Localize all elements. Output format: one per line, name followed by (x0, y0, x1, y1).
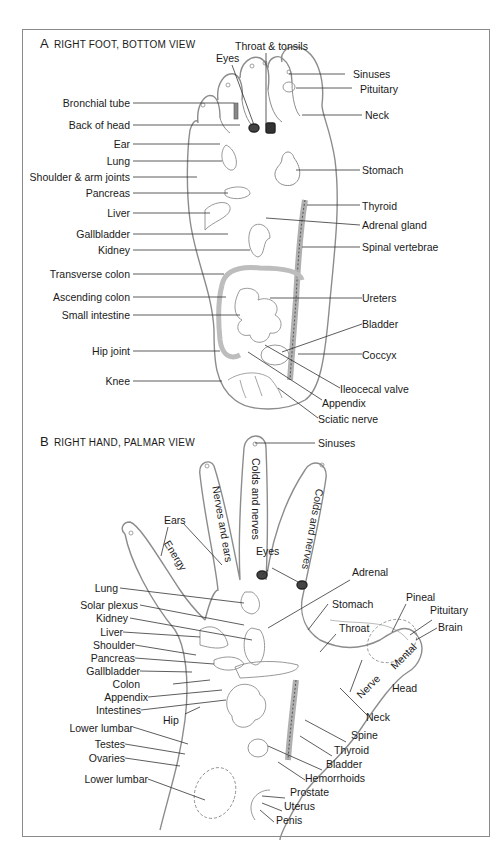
label-gallbladder: Gallbladder (76, 228, 130, 240)
label-stomach-hand: Stomach (332, 598, 373, 610)
label-uterus: Uterus (284, 800, 315, 812)
label-ovaries: Ovaries (89, 752, 125, 764)
label-pancreas: Pancreas (86, 187, 130, 199)
label-hip: Hip (163, 714, 179, 726)
label-ears: Ears (164, 514, 186, 526)
label-colon: Colon (113, 678, 140, 690)
label-liver-hand: Liver (100, 626, 123, 638)
label-testes: Testes (95, 738, 125, 750)
label-adrenal: Adrenal (352, 566, 388, 578)
label-sciatic-nerve: Sciatic nerve (318, 413, 378, 425)
label-lung: Lung (107, 155, 130, 167)
panel-a-title: ARIGHT FOOT, BOTTOM VIEW (40, 36, 195, 51)
label-lung-hand: Lung (95, 582, 118, 594)
hand-outline (122, 436, 422, 840)
finger-label-colds-nerves-middle: Colds and nerves (250, 458, 262, 540)
panel-b-letter: B (40, 434, 49, 449)
label-bladder-hand: Bladder (326, 758, 362, 770)
label-liver: Liver (107, 207, 130, 219)
label-eyes: Eyes (216, 52, 239, 64)
label-spine: Spine (351, 729, 378, 741)
label-head: Head (392, 682, 417, 694)
label-sinuses: Sinuses (353, 68, 390, 80)
label-adrenal-gland: Adrenal gland (362, 219, 427, 231)
panel-a-letter: A (40, 36, 49, 51)
panel-b-title-text: RIGHT HAND, PALMAR VIEW (54, 437, 195, 448)
label-back-of-head: Back of head (69, 119, 130, 131)
label-kidney-hand: Kidney (96, 612, 128, 624)
label-knee: Knee (105, 375, 130, 387)
panel-b-title: BRIGHT HAND, PALMAR VIEW (40, 434, 195, 449)
label-neck-hand: Neck (366, 711, 390, 723)
label-solar-plexus: Solar plexus (80, 599, 138, 611)
label-spinal-vertebrae: Spinal vertebrae (362, 241, 438, 253)
label-intestines: Intestines (96, 704, 141, 716)
label-coccyx: Coccyx (362, 349, 396, 361)
label-ascending-colon: Ascending colon (53, 291, 130, 303)
label-pineal: Pineal (406, 591, 435, 603)
label-throat-tonsils: Throat & tonsils (235, 40, 308, 52)
label-ear: Ear (114, 138, 130, 150)
label-appendix-hand: Appendix (104, 691, 148, 703)
label-appendix: Appendix (322, 397, 366, 409)
label-gallbladder-hand: Gallbladder (86, 665, 140, 677)
label-stomach: Stomach (362, 164, 403, 176)
label-eyes-hand: Eyes (256, 545, 279, 557)
label-bronchial-tube: Bronchial tube (63, 97, 130, 109)
label-penis: Penis (276, 814, 302, 826)
label-lower-lumbar-2: Lower lumbar (84, 773, 148, 785)
label-brain: Brain (438, 621, 463, 633)
panel-a-title-text: RIGHT FOOT, BOTTOM VIEW (54, 39, 195, 50)
label-thyroid: Thyroid (362, 200, 397, 212)
label-pituitary-hand: Pituitary (430, 604, 468, 616)
label-sinuses-hand: Sinuses (318, 437, 355, 449)
label-thyroid-hand: Thyroid (334, 744, 369, 756)
label-hip-joint: Hip joint (92, 345, 130, 357)
label-pituitary: Pituitary (360, 83, 398, 95)
label-shoulder-arm-joints: Shoulder & arm joints (30, 171, 130, 183)
label-hemorrhoids: Hemorrhoids (305, 772, 365, 784)
label-small-intestine: Small intestine (62, 309, 130, 321)
label-neck: Neck (365, 109, 389, 121)
label-pancreas-hand: Pancreas (91, 652, 135, 664)
label-ureters: Ureters (362, 292, 396, 304)
label-bladder: Bladder (362, 318, 398, 330)
label-lower-lumbar-1: Lower lumbar (69, 722, 133, 734)
label-shoulder: Shoulder (93, 639, 135, 651)
label-transverse-colon: Transverse colon (50, 268, 130, 280)
label-prostate: Prostate (290, 786, 329, 798)
label-throat: Throat (339, 622, 369, 634)
foot-outline (187, 47, 337, 409)
label-ileocecal-valve: Ileocecal valve (340, 383, 409, 395)
label-kidney: Kidney (98, 244, 130, 256)
